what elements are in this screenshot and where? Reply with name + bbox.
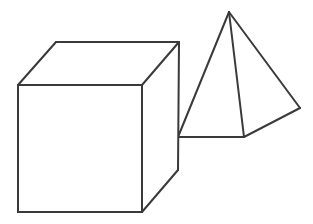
cube-front-face-fill xyxy=(18,85,142,212)
geometric-solids-figure: Line drawing of a cube and a pyramid Bla… xyxy=(0,0,313,224)
cube-shape xyxy=(18,42,179,212)
cube-right-vertical-edge xyxy=(178,42,179,170)
